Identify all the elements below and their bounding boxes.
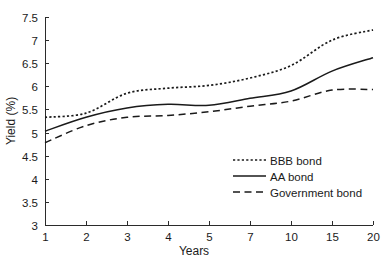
y-tick-label: 4: [32, 174, 39, 186]
x-tick-label: 15: [326, 231, 339, 243]
x-tick-label: 10: [285, 231, 298, 243]
y-tick-label: 7.5: [22, 12, 38, 24]
y-axis-title: Yield (%): [4, 97, 18, 145]
x-axis-tick-labels: 123457101520: [42, 231, 380, 243]
y-tick-label: 3.5: [22, 197, 38, 209]
legend-label-government-bond: Government bond: [270, 187, 362, 199]
x-tick-label: 1: [42, 231, 48, 243]
y-tick-label: 7: [32, 35, 38, 47]
y-tick-label: 6.5: [22, 58, 38, 70]
y-axis-tick-labels: 33.544.555.566.577.5: [22, 12, 39, 232]
y-tick-label: 4.5: [22, 151, 38, 163]
y-tick-label: 3: [32, 220, 38, 232]
y-tick-label: 5: [32, 128, 38, 140]
yield-curve-chart: 33.544.555.566.577.5 123457101520 Years …: [0, 0, 389, 263]
x-tick-label: 3: [124, 231, 130, 243]
x-tick-label: 7: [247, 231, 253, 243]
x-tick-label: 4: [165, 231, 172, 243]
chart-legend: BBB bondAA bondGovernment bond: [233, 155, 362, 199]
chart-canvas: 33.544.555.566.577.5 123457101520 Years …: [0, 0, 389, 263]
legend-label-aa-bond: AA bond: [270, 171, 313, 183]
legend-label-bbb-bond: BBB bond: [270, 155, 322, 167]
x-tick-label: 5: [206, 231, 212, 243]
x-tick-label: 20: [367, 231, 380, 243]
x-axis-title: Years: [179, 244, 209, 258]
series-line-aa-bond: [45, 58, 373, 131]
y-tick-label: 5.5: [22, 104, 38, 116]
series-line-bbb-bond: [45, 30, 373, 117]
series-line-government-bond: [45, 89, 373, 143]
x-axis-tick-marks: [46, 221, 374, 225]
x-tick-label: 2: [83, 231, 89, 243]
y-tick-label: 6: [32, 81, 38, 93]
data-series-layer: [45, 30, 373, 143]
